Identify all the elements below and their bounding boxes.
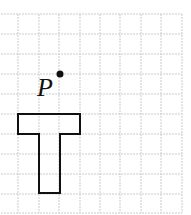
point-p-label: P <box>37 75 53 101</box>
point-p-dot <box>57 71 64 78</box>
grid-diagram <box>0 0 191 215</box>
